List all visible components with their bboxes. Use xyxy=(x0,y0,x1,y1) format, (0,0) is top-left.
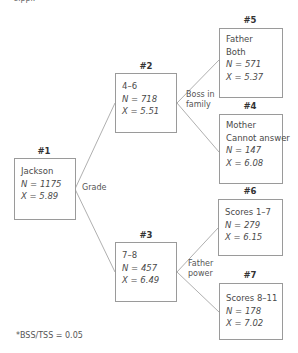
node-6-id: #6 xyxy=(220,186,280,196)
node-2-id: #2 xyxy=(116,61,176,71)
node-6-label: Scores 1–7 xyxy=(225,206,282,219)
node-3-id: #3 xyxy=(116,230,176,240)
node-4-label-1: Mother xyxy=(226,119,282,132)
edge-2-4 xyxy=(177,103,219,152)
node-1-x: X = 5.89 xyxy=(21,190,75,203)
node-7-id: #7 xyxy=(220,270,280,280)
node-6-x: X = 6.15 xyxy=(225,231,282,244)
node-5-label-1: Father xyxy=(226,33,282,46)
node-2: 4–6 N = 718 X = 5.51 xyxy=(115,73,177,133)
node-2-x: X = 5.51 xyxy=(122,105,176,118)
node-4-x: X = 6.08 xyxy=(226,157,282,170)
node-3-label: 7–8 xyxy=(122,249,176,262)
split-label-father-line1: Father xyxy=(188,259,213,269)
node-7-n: N = 178 xyxy=(226,305,282,318)
node-7-x: X = 7.02 xyxy=(226,317,282,330)
node-2-label: 4–6 xyxy=(122,80,176,93)
node-1-n: N = 1175 xyxy=(21,178,75,191)
split-label-father-line2: power xyxy=(188,269,213,279)
node-5-label-2: Both xyxy=(226,46,282,59)
split-label-father-power: Father power xyxy=(188,259,213,279)
node-6-n: N = 279 xyxy=(225,219,282,232)
node-1: Jackson N = 1175 X = 5.89 xyxy=(14,158,76,220)
node-5-n: N = 571 xyxy=(226,58,282,71)
node-5: Father Both N = 571 X = 5.37 xyxy=(219,28,283,98)
node-4: Mother Cannot answer N = 147 X = 6.08 xyxy=(219,114,283,184)
node-3-x: X = 6.49 xyxy=(122,274,176,287)
node-1-id: #1 xyxy=(14,146,74,156)
node-3-n: N = 457 xyxy=(122,262,176,275)
node-5-x: X = 5.37 xyxy=(226,71,282,84)
split-label-boss-in-family: Boss in family xyxy=(186,90,215,110)
split-label-grade: Grade xyxy=(82,183,106,193)
node-3: 7–8 N = 457 X = 6.49 xyxy=(115,242,177,302)
node-7: Scores 8–11 N = 178 X = 7.02 xyxy=(219,283,283,340)
node-4-label-2: Cannot answer xyxy=(226,132,282,145)
node-2-n: N = 718 xyxy=(122,93,176,106)
node-7-label: Scores 8–11 xyxy=(226,292,282,305)
node-4-id: #4 xyxy=(220,101,280,111)
node-4-n: N = 147 xyxy=(226,144,282,157)
edge-1-2 xyxy=(75,103,115,189)
node-6: Scores 1–7 N = 279 X = 6.15 xyxy=(218,199,283,256)
node-5-id: #5 xyxy=(220,15,280,25)
split-label-boss-line1: Boss in xyxy=(186,90,215,100)
split-label-boss-line2: family xyxy=(186,100,215,110)
footnote-bss-tss: *BSS/TSS = 0.05 xyxy=(16,331,83,340)
edge-1-3 xyxy=(75,189,115,272)
node-1-label: Jackson xyxy=(21,165,75,178)
